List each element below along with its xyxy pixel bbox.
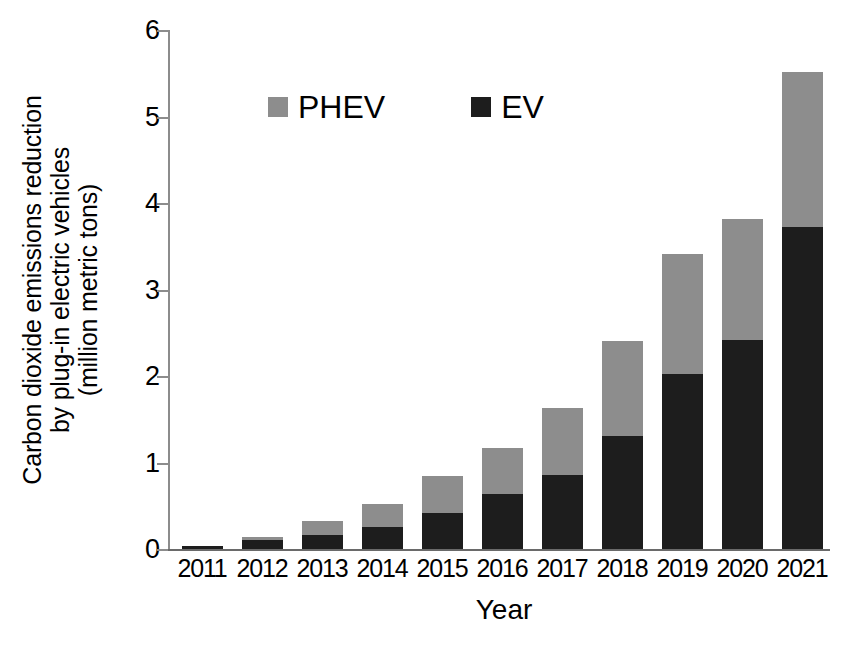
bar-segment-phev-2013[interactable] [302,521,343,535]
chart-legend: PHEV EV [268,86,544,128]
bar-segment-ev-2016[interactable] [482,494,523,549]
bar-segment-ev-2021[interactable] [782,227,823,549]
legend-item-phev[interactable]: PHEV [268,91,385,123]
y-axis-line [168,30,170,549]
y-axis-tick-mark [157,290,168,292]
bar-2016[interactable] [482,448,523,549]
bar-segment-phev-2019[interactable] [662,254,703,374]
chart-figure: Carbon dioxide emissions reduction by pl… [0,0,868,648]
bar-segment-ev-2011[interactable] [182,546,223,549]
y-axis-tick-label: 0 [120,536,160,563]
bar-segment-phev-2017[interactable] [542,408,583,475]
bar-segment-phev-2014[interactable] [362,504,403,527]
bar-2018[interactable] [602,341,643,549]
bar-2015[interactable] [422,476,463,549]
y-axis-tick-mark [157,203,168,205]
bar-segment-phev-2020[interactable] [722,219,763,339]
y-axis-title-line-3: (million metric tons) [74,10,102,570]
y-axis-tick-label: 2 [120,363,160,390]
y-axis-tick-label: 5 [120,103,160,130]
y-axis-tick-label: 6 [120,17,160,44]
bar-segment-ev-2020[interactable] [722,340,763,549]
bar-segment-ev-2018[interactable] [602,436,643,549]
y-axis-tick-label: 3 [120,276,160,303]
bar-2019[interactable] [662,254,703,549]
bar-2017[interactable] [542,408,583,549]
y-axis-title-line-1: Carbon dioxide emissions reduction [18,10,46,570]
y-axis-tick-label: 4 [120,190,160,217]
y-axis-tick-mark [157,30,168,32]
bar-segment-phev-2015[interactable] [422,476,463,512]
legend-item-ev[interactable]: EV [471,91,544,123]
bar-2020[interactable] [722,219,763,549]
y-axis-title: Carbon dioxide emissions reduction by pl… [18,10,102,570]
x-axis-tick-labels: 2011201220132014201520162017201820192020… [168,556,840,590]
bar-2012[interactable] [242,537,283,549]
legend-swatch-ev-icon [471,97,491,117]
x-axis-line [158,549,830,551]
y-axis-tick-labels: 0123456 [108,0,160,600]
y-axis-tick-mark [157,376,168,378]
bar-2013[interactable] [302,521,343,549]
y-axis-title-line-2: by plug-in electric vehicles [46,10,74,570]
bar-segment-phev-2018[interactable] [602,341,643,436]
bar-2014[interactable] [362,504,403,549]
legend-label-phev: PHEV [298,91,385,123]
bar-segment-ev-2012[interactable] [242,540,283,549]
legend-swatch-phev-icon [268,97,288,117]
bar-segment-phev-2021[interactable] [782,72,823,228]
x-axis-tick-label-2021: 2021 [762,556,842,581]
bar-segment-ev-2017[interactable] [542,475,583,549]
y-axis-title-container: Carbon dioxide emissions reduction by pl… [0,0,120,580]
x-axis-title: Year [168,596,840,624]
y-axis-tick-mark [157,117,168,119]
bar-segment-ev-2014[interactable] [362,527,403,549]
y-axis-tick-mark [157,549,168,551]
y-axis-tick-mark [157,463,168,465]
bar-2021[interactable] [782,72,823,549]
y-axis-tick-label: 1 [120,449,160,476]
bar-segment-ev-2019[interactable] [662,374,703,549]
bar-2011[interactable] [182,546,223,549]
bar-segment-ev-2015[interactable] [422,513,463,549]
bar-segment-phev-2016[interactable] [482,448,523,494]
bar-segment-ev-2013[interactable] [302,535,343,549]
legend-label-ev: EV [501,91,544,123]
